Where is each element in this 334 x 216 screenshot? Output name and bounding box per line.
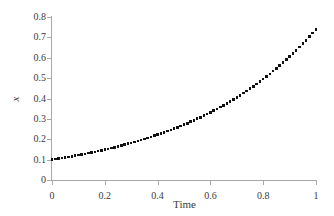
data-point — [311, 32, 314, 35]
exponential-growth-chart: 00.10.20.30.40.50.60.70.8 00.20.40.60.81… — [0, 0, 334, 216]
data-point — [61, 157, 64, 160]
data-point — [222, 104, 225, 107]
data-point — [216, 108, 219, 111]
data-point — [269, 73, 272, 76]
plot-area — [52, 17, 316, 180]
data-point — [51, 158, 54, 161]
data-point — [203, 114, 206, 117]
data-point — [308, 35, 311, 38]
y-tick-label: 0.7 — [0, 32, 46, 42]
data-point — [262, 78, 265, 81]
data-point — [272, 70, 275, 73]
data-point — [282, 61, 285, 64]
y-tick-label: 0.6 — [0, 53, 46, 63]
data-point — [288, 55, 291, 58]
data-point — [285, 58, 288, 61]
y-tick-mark — [47, 99, 51, 100]
data-point — [67, 156, 70, 159]
data-point — [123, 143, 126, 146]
y-tick-label: 0.8 — [0, 12, 46, 22]
data-point — [146, 137, 149, 140]
x-axis-title: Time — [52, 198, 317, 210]
data-point — [239, 94, 242, 97]
data-point — [153, 134, 156, 137]
data-point — [71, 155, 74, 158]
data-point — [87, 152, 90, 155]
data-point — [199, 116, 202, 119]
data-point — [226, 102, 229, 105]
data-point — [150, 136, 153, 139]
y-tick-label: 0.4 — [0, 94, 46, 104]
data-point — [183, 123, 186, 126]
y-tick-label: 0.1 — [0, 155, 46, 165]
y-axis-title: x — [9, 86, 21, 112]
data-point — [110, 147, 113, 150]
data-point — [186, 122, 189, 125]
data-point — [166, 130, 169, 133]
data-point — [255, 83, 258, 86]
data-point — [137, 140, 140, 143]
y-tick-mark — [47, 58, 51, 59]
data-point — [295, 49, 298, 52]
data-point — [80, 153, 83, 156]
data-point — [232, 98, 235, 101]
data-point — [302, 42, 305, 45]
y-tick-mark — [47, 17, 51, 18]
data-point — [104, 148, 107, 151]
data-point — [64, 156, 67, 159]
data-point — [113, 146, 116, 149]
data-point — [259, 80, 262, 83]
data-point — [97, 150, 100, 153]
data-point — [189, 120, 192, 123]
data-point — [77, 154, 80, 157]
y-tick-label: 0 — [0, 175, 46, 185]
data-point — [229, 100, 232, 103]
data-point — [127, 142, 130, 145]
data-point — [170, 129, 173, 132]
data-point — [249, 87, 252, 90]
x-axis-line — [52, 180, 317, 181]
data-point — [163, 131, 166, 134]
data-point — [100, 149, 103, 152]
data-point — [292, 52, 295, 55]
data-point — [130, 142, 133, 145]
data-point — [107, 148, 110, 151]
data-point — [133, 141, 136, 144]
y-tick-mark — [47, 37, 51, 38]
data-point — [173, 127, 176, 130]
data-point — [94, 151, 97, 154]
data-point — [315, 28, 318, 31]
y-tick-label: 0.3 — [0, 114, 46, 124]
data-point — [275, 67, 278, 70]
data-point — [236, 96, 239, 99]
data-point — [90, 151, 93, 154]
data-point — [212, 109, 215, 112]
data-point — [206, 113, 209, 116]
y-tick-mark — [47, 139, 51, 140]
y-tick-mark — [47, 78, 51, 79]
data-point — [74, 154, 77, 157]
data-point — [156, 133, 159, 136]
data-point — [245, 90, 248, 93]
data-point — [160, 132, 163, 135]
data-point — [176, 126, 179, 129]
data-point — [209, 111, 212, 114]
y-tick-label: 0.5 — [0, 73, 46, 83]
y-tick-label: 0.2 — [0, 134, 46, 144]
data-point — [219, 106, 222, 109]
data-point — [57, 157, 60, 160]
data-point — [305, 39, 308, 42]
y-tick-mark — [47, 180, 51, 181]
data-point — [196, 117, 199, 120]
data-point — [84, 153, 87, 156]
data-point — [265, 75, 268, 78]
data-point — [179, 125, 182, 128]
data-point — [120, 144, 123, 147]
y-tick-mark — [47, 119, 51, 120]
data-point — [242, 92, 245, 95]
data-point — [278, 64, 281, 67]
data-point — [140, 139, 143, 142]
data-point — [193, 119, 196, 122]
data-point — [54, 158, 57, 161]
data-point — [117, 145, 120, 148]
